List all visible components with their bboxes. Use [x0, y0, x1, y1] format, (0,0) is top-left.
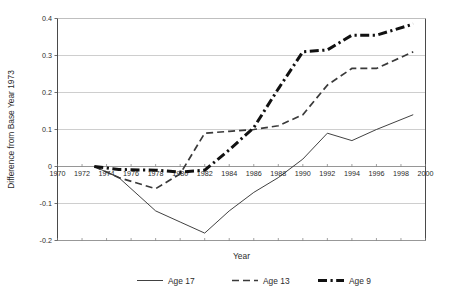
legend-label-age-9: Age 9 [349, 276, 371, 286]
x-tick-label: 1998 [393, 169, 409, 178]
x-tick-label: 1996 [368, 169, 384, 178]
x-axis-title: Year [233, 251, 250, 261]
x-tick-label: 1972 [74, 169, 90, 178]
chart-canvas: -0.2-0.100.10.20.30.41970197219741976197… [0, 0, 453, 298]
y-tick-label: -0.2 [40, 236, 52, 245]
legend-label-age-17: Age 17 [168, 276, 195, 286]
legend: Age 17Age 13Age 9 [137, 276, 371, 286]
y-tick-label: -0.1 [40, 199, 52, 208]
series-line-age-9 [94, 24, 413, 172]
y-tick-label: 0.3 [42, 51, 52, 60]
gridlines [58, 19, 426, 241]
legend-label-age-13: Age 13 [263, 276, 290, 286]
x-tick-label: 2000 [418, 169, 434, 178]
y-axis-title: Difference from Base Year 1973 [6, 70, 16, 189]
y-tick-label: 0.2 [42, 88, 52, 97]
x-tick-label: 1994 [344, 169, 360, 178]
x-tick-label: 1970 [50, 169, 66, 178]
x-tick-label: 1984 [221, 169, 237, 178]
x-tick-label: 1974 [99, 169, 115, 178]
x-tick-label: 1990 [295, 169, 311, 178]
y-tick-label: 0.4 [42, 14, 52, 23]
x-tick-label: 1992 [319, 169, 335, 178]
line-chart: -0.2-0.100.10.20.30.41970197219741976197… [0, 0, 453, 298]
y-tick-label: 0.1 [42, 125, 52, 134]
y-tick-labels: -0.2-0.100.10.20.30.4 [40, 14, 58, 245]
x-tick-label: 1986 [246, 169, 262, 178]
